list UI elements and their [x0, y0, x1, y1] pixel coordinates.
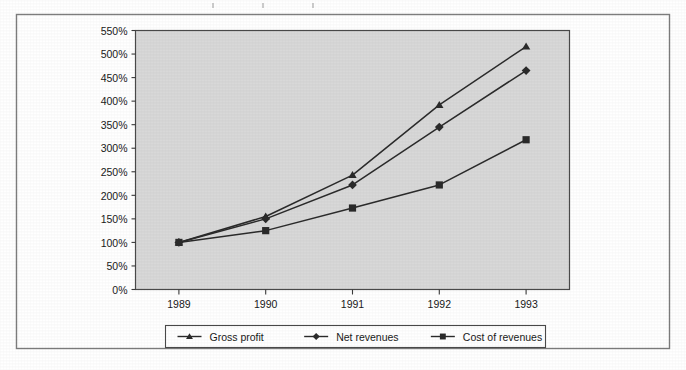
data-point-marker-square: [440, 334, 446, 340]
legend-item-label: Net revenues: [336, 331, 398, 343]
y-axis-tick-label: 100%: [101, 237, 128, 249]
data-point-marker-square: [262, 227, 269, 234]
x-axis-tick-label: 1990: [254, 298, 278, 310]
scan-artifact-speck: [312, 3, 314, 8]
x-axis-tick-label: 1992: [428, 298, 452, 310]
chart-legend: Gross profitNet revenuesCost of revenues: [166, 326, 546, 348]
x-axis-tick-label: 1989: [167, 298, 191, 310]
legend-item-label: Gross profit: [210, 331, 264, 343]
y-axis-tick-label: 550%: [101, 25, 128, 37]
data-point-marker-square: [175, 239, 182, 246]
data-point-marker-square: [349, 204, 356, 211]
x-axis-tick-label: 1991: [341, 298, 365, 310]
chart-figure: 0%50%100%150%200%250%300%350%400%450%500…: [0, 0, 686, 370]
data-point-marker-square: [523, 136, 530, 143]
y-axis-tick-label: 150%: [101, 213, 128, 225]
plot-area-background: [136, 31, 570, 290]
x-axis-tick-label: 1993: [514, 298, 538, 310]
y-axis-tick-label: 250%: [101, 166, 128, 178]
y-axis-tick-label: 300%: [101, 142, 128, 154]
y-axis-tick-label: 350%: [101, 119, 128, 131]
y-axis-tick-label: 400%: [101, 95, 128, 107]
data-point-marker-square: [436, 181, 443, 188]
y-axis-tick-label: 200%: [101, 190, 128, 202]
legend-item-label: Cost of revenues: [463, 331, 542, 343]
y-axis-tick-label: 500%: [101, 48, 128, 60]
y-axis-tick-label: 0%: [112, 284, 127, 296]
scan-artifact-speck: [262, 3, 264, 8]
y-axis-tick-label: 450%: [101, 72, 128, 84]
scan-artifact-speck: [212, 3, 214, 8]
indexed-growth-line-chart: 0%50%100%150%200%250%300%350%400%450%500…: [0, 0, 686, 370]
y-axis-tick-label: 50%: [106, 260, 127, 272]
legend-entries: Gross profitNet revenuesCost of revenues: [178, 331, 543, 343]
